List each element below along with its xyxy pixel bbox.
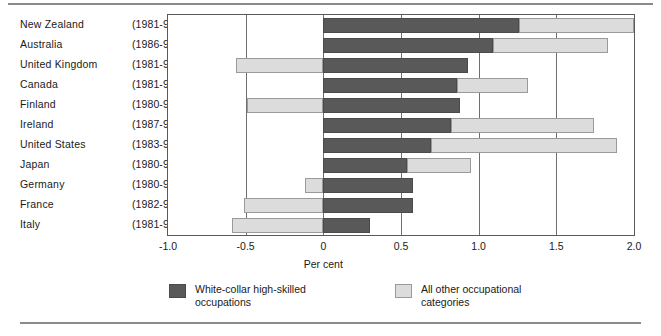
plot-area xyxy=(167,14,635,236)
bar-row xyxy=(168,215,634,235)
bar-segment-white-collar xyxy=(323,98,460,113)
bar-segment-all-other xyxy=(451,118,594,133)
category-name: Japan xyxy=(20,158,50,170)
category-label-row: Japan(1980-90) xyxy=(20,154,170,174)
x-axis-tick-label: 1.0 xyxy=(471,240,486,252)
category-label-row: New Zealand(1981-95) xyxy=(20,14,170,34)
bar-segment-white-collar xyxy=(323,178,413,193)
top-divider xyxy=(8,3,653,5)
bar-segment-all-other xyxy=(305,178,324,193)
bar-row xyxy=(168,115,634,135)
category-label-row: Italy(1981-95) xyxy=(20,214,170,234)
bar-row xyxy=(168,195,634,215)
category-label-row: France(1982-95) xyxy=(20,194,170,214)
category-name: Australia xyxy=(20,38,63,50)
x-axis-ticks: -1.0-0.500.51.01.52.0 xyxy=(0,240,661,256)
legend-label: All other occupational categories xyxy=(421,283,521,308)
category-name: France xyxy=(20,198,54,210)
bar-segment-all-other xyxy=(244,198,323,213)
bar-segment-all-other xyxy=(457,78,528,93)
category-name: Ireland xyxy=(20,118,54,130)
legend-item: White-collar high-skilled occupations xyxy=(169,283,306,308)
bar-segment-white-collar xyxy=(323,78,457,93)
bar-segment-white-collar xyxy=(323,118,450,133)
bottom-divider xyxy=(20,322,641,324)
category-label-row: Canada(1981-91) xyxy=(20,74,170,94)
category-label-row: Germany(1980-90) xyxy=(20,174,170,194)
bar-row xyxy=(168,175,634,195)
chart-legend: White-collar high-skilled occupationsAll… xyxy=(0,283,661,317)
bar-segment-all-other xyxy=(407,158,471,173)
x-axis-tick-label: 2.0 xyxy=(627,240,642,252)
bar-row xyxy=(168,75,634,95)
category-name: New Zealand xyxy=(20,18,84,30)
x-axis-tick-label: -0.5 xyxy=(237,240,255,252)
category-label-row: Finland(1980-90) xyxy=(20,94,170,114)
bar-segment-all-other xyxy=(232,218,324,233)
category-label-row: United States(1983-93) xyxy=(20,134,170,154)
legend-swatch-dark xyxy=(169,284,186,298)
category-name: United Kingdom xyxy=(20,58,98,70)
bar-row xyxy=(168,95,634,115)
bar-segment-all-other xyxy=(519,18,634,33)
bar-row xyxy=(168,15,634,35)
bar-segment-all-other xyxy=(431,138,617,153)
category-name: Finland xyxy=(20,98,56,110)
bar-segment-all-other xyxy=(493,38,608,53)
category-label-row: United Kingdom(1981-95) xyxy=(20,54,170,74)
category-name: Italy xyxy=(20,218,40,230)
bar-segment-white-collar xyxy=(323,198,413,213)
bar-segment-white-collar xyxy=(323,18,519,33)
x-axis-tick-label: 1.5 xyxy=(549,240,564,252)
bar-segment-white-collar xyxy=(323,158,407,173)
x-axis-tick-label: 0 xyxy=(320,240,326,252)
legend-item: All other occupational categories xyxy=(395,283,521,308)
category-name: Canada xyxy=(20,78,58,90)
category-label-row: Ireland(1987-95) xyxy=(20,114,170,134)
bar-row xyxy=(168,155,634,175)
x-axis-tick-label: 0.5 xyxy=(394,240,409,252)
bar-segment-white-collar xyxy=(323,218,370,233)
bar-rows xyxy=(168,15,634,235)
category-name: Germany xyxy=(20,178,65,190)
bar-row xyxy=(168,135,634,155)
legend-swatch-light xyxy=(395,284,412,298)
category-label-row: Australia(1986-91) xyxy=(20,34,170,54)
x-axis-title: Per cent xyxy=(304,258,343,270)
bar-segment-white-collar xyxy=(323,38,492,53)
bar-segment-white-collar xyxy=(323,138,430,153)
x-axis-tick-label: -1.0 xyxy=(159,240,177,252)
bar-segment-white-collar xyxy=(323,58,467,73)
category-name: United States xyxy=(20,138,86,150)
bar-row xyxy=(168,55,634,75)
category-labels: New Zealand(1981-95)Australia(1986-91)Un… xyxy=(20,14,170,234)
bar-segment-all-other xyxy=(236,58,323,73)
bar-row xyxy=(168,35,634,55)
legend-label: White-collar high-skilled occupations xyxy=(195,283,306,308)
bar-segment-all-other xyxy=(247,98,323,113)
